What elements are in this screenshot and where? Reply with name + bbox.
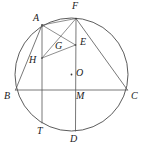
- point-label-o: O: [76, 68, 83, 78]
- figure-canvas: [0, 0, 144, 150]
- vertex-a-dot: [41, 24, 43, 26]
- point-label-f: F: [72, 1, 78, 11]
- point-label-g: G: [55, 41, 62, 51]
- point-label-m: M: [76, 91, 84, 101]
- vertex-h-dot: [41, 57, 43, 59]
- vertex-e-dot: [75, 44, 77, 46]
- point-label-a: A: [33, 13, 39, 23]
- point-label-t: T: [37, 126, 43, 136]
- point-label-e: E: [80, 37, 86, 47]
- segment-f-h: [42, 19, 76, 59]
- point-label-c: C: [131, 91, 138, 101]
- centre-point-o-dot: [71, 74, 73, 76]
- chord-f-c: [76, 19, 128, 91]
- point-label-h: H: [29, 55, 36, 65]
- point-label-b: B: [4, 91, 10, 101]
- point-label-d: D: [70, 134, 77, 144]
- vertex-f-dot: [75, 18, 77, 20]
- geometry-figure: A F E G H O B M C T D: [0, 0, 144, 150]
